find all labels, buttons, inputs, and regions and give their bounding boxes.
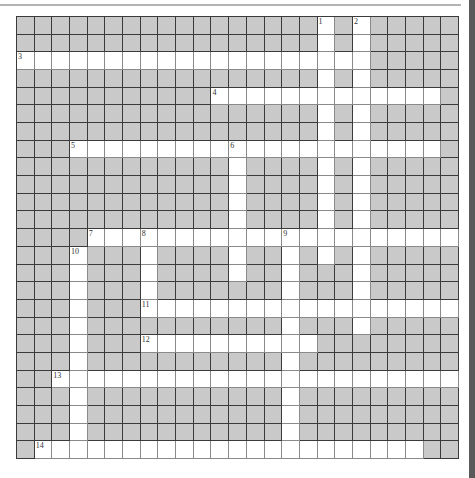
crossword-cell-open[interactable] [105,371,123,389]
crossword-cell-open[interactable] [247,441,265,459]
crossword-cell-open[interactable] [371,371,389,389]
crossword-cell-open[interactable] [158,52,176,70]
crossword-cell-open[interactable] [105,441,123,459]
crossword-cell-open[interactable] [406,371,424,389]
crossword-cell-open[interactable] [158,141,176,159]
crossword-cell-open[interactable] [229,335,247,353]
crossword-cell-open[interactable] [388,141,406,159]
crossword-cell-open[interactable] [318,176,336,194]
crossword-cell-open[interactable] [247,300,265,318]
crossword-cell-open[interactable] [194,335,212,353]
crossword-cell-open[interactable] [335,52,353,70]
crossword-cell-open[interactable] [194,141,212,159]
crossword-cell-open[interactable] [158,371,176,389]
crossword-cell-open[interactable] [158,300,176,318]
crossword-cell-open[interactable] [211,335,229,353]
crossword-cell-open[interactable] [318,300,336,318]
crossword-cell-open[interactable]: 7 [88,229,106,247]
crossword-cell-open[interactable] [353,52,371,70]
crossword-cell-open[interactable] [353,123,371,141]
crossword-cell-open[interactable] [123,229,141,247]
crossword-cell-open[interactable] [123,141,141,159]
crossword-cell-open[interactable] [229,88,247,106]
crossword-cell-open[interactable] [300,52,318,70]
crossword-cell-open[interactable] [229,441,247,459]
crossword-cell-open[interactable] [318,441,336,459]
crossword-cell-open[interactable] [353,211,371,229]
crossword-cell-open[interactable] [211,52,229,70]
crossword-cell-open[interactable]: 13 [52,371,70,389]
crossword-cell-open[interactable] [229,52,247,70]
crossword-cell-open[interactable] [318,211,336,229]
crossword-cell-open[interactable]: 10 [70,247,88,265]
crossword-cell-open[interactable] [265,88,283,106]
crossword-cell-open[interactable] [141,371,159,389]
crossword-cell-open[interactable] [211,300,229,318]
crossword-cell-open[interactable] [282,300,300,318]
crossword-cell-open[interactable] [282,282,300,300]
crossword-cell-open[interactable] [141,247,159,265]
crossword-cell-open[interactable] [52,52,70,70]
crossword-cell-open[interactable]: 11 [141,300,159,318]
crossword-cell-open[interactable] [176,52,194,70]
crossword-cell-open[interactable] [388,441,406,459]
crossword-cell-open[interactable] [318,88,336,106]
crossword-cell-open[interactable] [229,265,247,283]
crossword-cell-open[interactable] [52,441,70,459]
crossword-cell-open[interactable] [88,52,106,70]
crossword-cell-open[interactable] [424,371,442,389]
crossword-cell-open[interactable]: 3 [17,52,35,70]
crossword-cell-open[interactable] [229,211,247,229]
crossword-cell-open[interactable] [105,229,123,247]
crossword-cell-open[interactable] [353,176,371,194]
crossword-cell-open[interactable] [70,388,88,406]
crossword-cell-open[interactable]: 6 [229,141,247,159]
crossword-cell-open[interactable] [335,300,353,318]
crossword-cell-open[interactable] [282,353,300,371]
crossword-cell-open[interactable] [406,300,424,318]
crossword-cell-open[interactable] [265,300,283,318]
crossword-cell-open[interactable] [371,141,389,159]
crossword-cell-open[interactable] [158,229,176,247]
crossword-cell-open[interactable] [353,141,371,159]
crossword-cell-open[interactable] [70,318,88,336]
crossword-cell-open[interactable] [247,229,265,247]
crossword-cell-open[interactable] [424,229,442,247]
crossword-cell-open[interactable] [388,371,406,389]
crossword-cell-open[interactable] [441,300,459,318]
crossword-cell-open[interactable] [300,441,318,459]
crossword-cell-open[interactable] [388,88,406,106]
crossword-cell-open[interactable] [353,247,371,265]
crossword-cell-open[interactable] [282,388,300,406]
crossword-cell-open[interactable] [424,300,442,318]
crossword-cell-open[interactable] [300,88,318,106]
crossword-cell-open[interactable] [211,141,229,159]
crossword-cell-open[interactable] [318,141,336,159]
crossword-cell-open[interactable] [424,141,442,159]
crossword-cell-open[interactable] [353,265,371,283]
crossword-cell-open[interactable] [229,176,247,194]
crossword-cell-open[interactable] [229,229,247,247]
crossword-cell-open[interactable] [229,371,247,389]
crossword-cell-open[interactable] [335,88,353,106]
crossword-cell-open[interactable] [406,141,424,159]
crossword-cell-open[interactable]: 1 [318,17,336,35]
crossword-cell-open[interactable] [211,229,229,247]
crossword-cell-open[interactable] [194,371,212,389]
crossword-cell-open[interactable] [353,35,371,53]
crossword-cell-open[interactable] [300,229,318,247]
crossword-cell-open[interactable] [229,158,247,176]
crossword-cell-open[interactable] [70,406,88,424]
crossword-cell-open[interactable] [176,441,194,459]
crossword-cell-open[interactable] [353,371,371,389]
crossword-cell-open[interactable] [406,229,424,247]
crossword-cell-open[interactable] [265,441,283,459]
crossword-cell-open[interactable] [282,371,300,389]
crossword-cell-open[interactable] [88,371,106,389]
crossword-cell-open[interactable] [70,371,88,389]
crossword-cell-open[interactable] [70,441,88,459]
crossword-cell-open[interactable] [318,158,336,176]
crossword-cell-open[interactable] [353,158,371,176]
crossword-cell-open[interactable] [194,229,212,247]
crossword-cell-open[interactable] [105,52,123,70]
